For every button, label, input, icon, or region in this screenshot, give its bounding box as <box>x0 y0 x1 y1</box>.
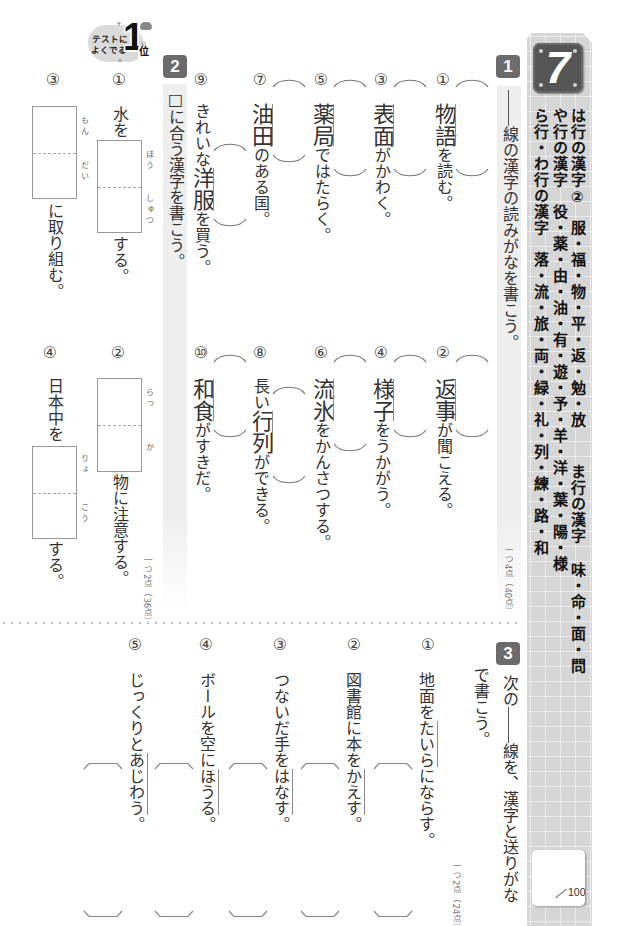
bracket-top-icon <box>272 77 306 88</box>
sentence-after: 。 <box>197 816 216 832</box>
target-word: はなす <box>271 768 290 816</box>
sentence-after: 。 <box>343 816 362 832</box>
item-number: ⑤ <box>123 636 147 654</box>
reading-question: 様子をうかがう。 <box>369 378 393 518</box>
sentence-after: を読む。 <box>434 147 453 211</box>
answer-bracket[interactable] <box>154 762 194 918</box>
item-number: ③ <box>41 71 65 89</box>
bracket-top-icon <box>333 352 367 363</box>
item-number: ③ <box>268 636 292 654</box>
answer-bracket[interactable] <box>272 384 306 486</box>
underlined-word: はなす <box>268 768 292 816</box>
kanji-answer-box[interactable] <box>97 140 142 233</box>
sentence-after: をかんさつする。 <box>312 422 331 550</box>
topic-heading: や行の漢字 <box>549 108 569 188</box>
bracket-top-icon <box>272 384 306 395</box>
answer-bracket[interactable] <box>455 352 489 440</box>
underline <box>364 769 365 815</box>
target-word: たいら <box>416 720 435 768</box>
target-kanji: 返事 <box>431 378 456 422</box>
bracket-bottom-icon <box>455 429 489 440</box>
bracket-bottom-icon <box>393 429 427 440</box>
reading-question: 油田のある国。 <box>248 103 272 227</box>
bracket-bottom-icon <box>213 429 247 440</box>
instruction-text: 線の漢字の読みがなを書こう。 <box>500 126 519 350</box>
dotted-divider <box>0 621 522 625</box>
item-number: ① <box>107 71 131 89</box>
item-number: ① <box>416 636 440 654</box>
sentence-after: する。 <box>107 236 131 284</box>
top-rank-badge: ✦ ✦ テストに よくでる 1 い 位 <box>86 14 156 66</box>
answer-bracket[interactable] <box>393 77 427 179</box>
kanji-answer-box[interactable] <box>32 446 77 539</box>
sentence-before: じっくりと <box>126 672 145 752</box>
sentence-before: ボールを空に <box>197 672 216 768</box>
sparkle-icon: ✦ <box>116 20 122 28</box>
answer-bracket[interactable] <box>83 762 123 918</box>
underlined-word: ほうる <box>194 768 218 816</box>
answer-bracket[interactable] <box>373 762 413 918</box>
score-box[interactable]: 100 <box>532 850 585 906</box>
reading-question: 流氷をかんさつする。 <box>309 378 333 550</box>
section-2-points: 一つ2点（36点） <box>141 556 153 626</box>
bracket-bottom-icon <box>272 154 306 165</box>
underlined-word: 油田 <box>248 103 272 147</box>
bracket-top-icon <box>83 762 123 770</box>
badge-line2: よくでる <box>91 45 127 55</box>
unit-number: 7 <box>546 43 570 92</box>
underline <box>147 753 148 815</box>
section-3-badge: 3 <box>496 642 520 665</box>
bracket-top-icon <box>393 77 427 88</box>
reading-hint: ほう <box>143 150 153 172</box>
sample-underline <box>497 90 521 126</box>
instruction-text: 次の <box>500 675 519 707</box>
sentence-after: がかわく。 <box>372 147 391 227</box>
dashed-divider <box>98 187 141 188</box>
answer-bracket[interactable] <box>228 762 268 918</box>
kanji-answer-box[interactable] <box>97 378 142 472</box>
item-number: ② <box>106 344 130 362</box>
sample-underline <box>497 707 521 743</box>
sentence-before: 日本中を <box>42 378 66 442</box>
answer-bracket[interactable] <box>333 352 367 454</box>
target-word: かえす <box>343 768 362 816</box>
bracket-bottom-icon <box>333 168 367 179</box>
bracket-bottom-icon <box>83 910 123 918</box>
sentence-before: 地面を <box>416 672 435 720</box>
answer-bracket[interactable] <box>272 77 306 165</box>
okurigana-question: 地面をたいらにならす。 <box>413 672 437 848</box>
bracket-top-icon <box>455 77 489 88</box>
answer-bracket[interactable] <box>213 352 247 440</box>
sentence-before: 水を <box>107 106 131 138</box>
target-kanji: 表面 <box>369 103 394 147</box>
answer-bracket[interactable] <box>300 762 340 918</box>
target-word: あじわう <box>126 752 145 816</box>
reading-question: 薬局ではたらく。 <box>309 103 333 243</box>
answer-bracket[interactable] <box>213 141 247 229</box>
mascot-icon <box>140 22 152 30</box>
badge-dot <box>539 83 543 87</box>
reading-question: 表面がかわく。 <box>369 103 393 227</box>
section-1-instruction: 線の漢字の読みがなを書こう。 <box>497 90 521 350</box>
topic-kanji-list: 役・薬・由・油・有・遊・予・羊・洋・葉・陽・様 <box>549 204 569 572</box>
bracket-top-icon <box>455 352 489 363</box>
section-2-instruction: □に合う漢字を書こう。 <box>163 90 187 269</box>
answer-bracket[interactable] <box>333 77 367 179</box>
bracket-bottom-icon <box>154 910 194 918</box>
underlined-word: 返事 <box>431 378 455 422</box>
item-number: ⑧ <box>248 344 272 362</box>
answer-bracket[interactable] <box>455 77 489 179</box>
sentence-after: にならす。 <box>416 768 435 848</box>
kanji-answer-box[interactable] <box>32 106 77 199</box>
underlined-word: あじわう <box>123 752 147 816</box>
bracket-bottom-icon <box>333 443 367 454</box>
sentence-after: する。 <box>42 541 66 589</box>
badge-dot <box>573 83 577 87</box>
target-kanji: 様子 <box>369 378 394 422</box>
bracket-bottom-icon <box>272 475 306 486</box>
target-kanji: 和食 <box>189 378 214 422</box>
answer-bracket[interactable] <box>393 352 427 440</box>
target-kanji: 行列 <box>248 410 273 454</box>
sentence-after: を買う。 <box>192 211 211 275</box>
sentence-before: 図書館に本を <box>343 672 362 768</box>
